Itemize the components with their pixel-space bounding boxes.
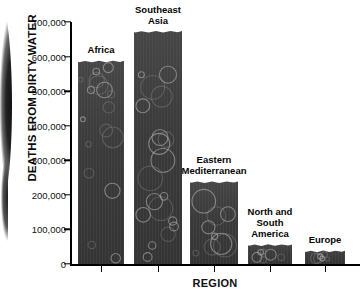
bar-label-eastern-mediterranean: Eastern Mediterranean bbox=[164, 154, 264, 176]
y-tick-mark bbox=[64, 90, 71, 91]
y-tick-mark bbox=[64, 229, 71, 230]
x-tick-mark bbox=[325, 265, 326, 272]
y-tick-mark bbox=[64, 21, 71, 22]
x-axis-title: REGION bbox=[70, 277, 360, 289]
bar-label-europe: Europe bbox=[279, 234, 363, 245]
y-tick-label: 500,000 bbox=[14, 86, 66, 97]
x-tick-mark bbox=[158, 265, 159, 272]
y-tick-mark bbox=[64, 56, 71, 57]
y-tick-label: 200,000 bbox=[14, 189, 66, 200]
y-axis-tick-labels: 0100,000200,000300,000400,000500,000600,… bbox=[14, 0, 66, 285]
x-tick-mark bbox=[270, 265, 271, 272]
y-tick-mark bbox=[64, 160, 71, 161]
y-tick-label: 400,000 bbox=[14, 120, 66, 131]
y-tick-label: 300,000 bbox=[14, 155, 66, 166]
x-tick-mark bbox=[214, 265, 215, 272]
bar bbox=[134, 30, 182, 264]
y-tick-label: 0 bbox=[14, 259, 66, 270]
bar bbox=[305, 249, 345, 264]
bar bbox=[248, 243, 292, 264]
y-tick-label: 100,000 bbox=[14, 224, 66, 235]
bar-label-southeast-asia: Southeast Asia bbox=[108, 4, 208, 26]
bar bbox=[78, 59, 124, 264]
y-tick-label: 700,000 bbox=[14, 17, 66, 28]
x-tick-mark bbox=[101, 265, 102, 272]
bar-label-africa: Africa bbox=[52, 44, 150, 55]
y-tick-mark bbox=[64, 125, 71, 126]
y-tick-mark bbox=[64, 194, 71, 195]
y-tick-mark bbox=[64, 263, 71, 264]
